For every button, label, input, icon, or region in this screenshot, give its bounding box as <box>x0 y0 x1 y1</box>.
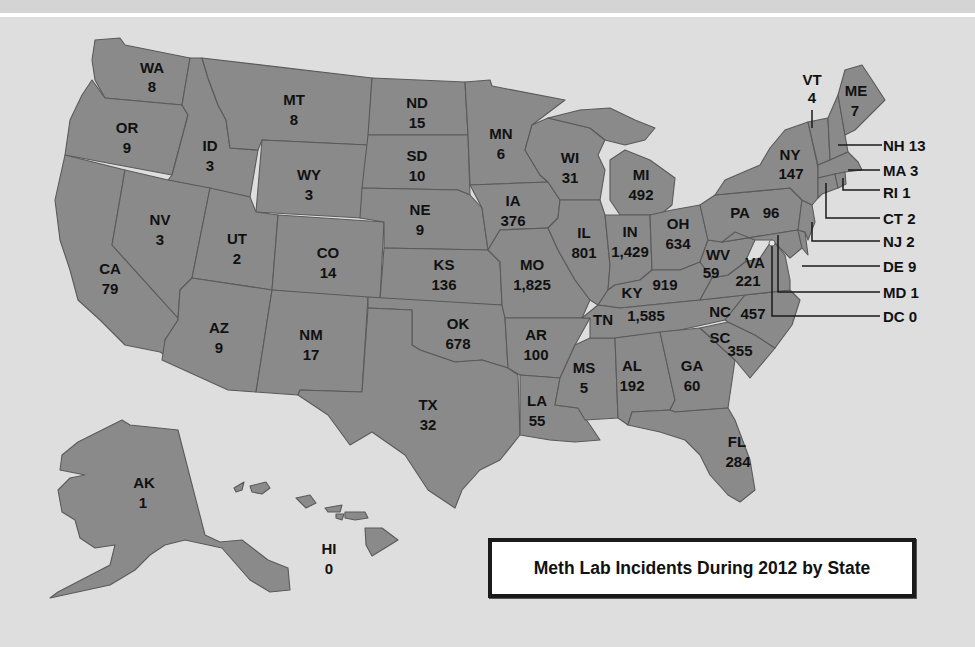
label-GA-value: 60 <box>684 377 701 394</box>
label-AL-abbr: AL <box>622 357 642 374</box>
callout-DE: DE 9 <box>883 258 916 275</box>
state-HI-lanai[interactable] <box>336 514 344 520</box>
label-WV-abbr: WV <box>706 246 730 263</box>
callout-MA: MA 3 <box>883 162 918 179</box>
label-PA-abbr: PA <box>730 204 750 221</box>
state-HI-kauai[interactable] <box>234 482 244 492</box>
label-NV-abbr: NV <box>150 211 171 228</box>
label-HI-abbr: HI <box>322 540 337 557</box>
label-OR-value: 9 <box>123 139 131 156</box>
label-KY-value: 919 <box>652 276 677 293</box>
label-IL-value: 801 <box>571 244 596 261</box>
label-UT-value: 2 <box>233 250 241 267</box>
label-ND-abbr: ND <box>406 94 428 111</box>
callout-RI: RI 1 <box>883 184 911 201</box>
label-AL-value: 192 <box>619 377 644 394</box>
label-NE-value: 9 <box>416 221 424 238</box>
label-KS-abbr: KS <box>434 256 455 273</box>
label-MI-value: 492 <box>628 186 653 203</box>
label-IA-value: 376 <box>500 212 525 229</box>
label-KY-abbr: KY <box>622 284 643 301</box>
label-FL-abbr: FL <box>728 433 746 450</box>
label-WA-abbr: WA <box>140 59 164 76</box>
label-TX-abbr: TX <box>418 396 437 413</box>
label-IN-value: 1,429 <box>611 243 649 260</box>
label-VT-abbr: VT <box>802 71 821 88</box>
label-TN-value: 1,585 <box>627 307 665 324</box>
label-FL-value: 284 <box>725 453 751 470</box>
label-SD-abbr: SD <box>407 147 428 164</box>
label-LA-abbr: LA <box>527 392 547 409</box>
label-AR-value: 100 <box>523 346 548 363</box>
label-SC-value: 355 <box>727 342 752 359</box>
label-CO-abbr: CO <box>317 244 340 261</box>
label-VT-value: 4 <box>808 89 817 106</box>
label-WI-value: 31 <box>562 169 579 186</box>
state-CT[interactable] <box>818 174 838 198</box>
state-HI-molokai[interactable] <box>296 495 316 508</box>
label-HI-value: 0 <box>325 560 333 577</box>
state-HI-maui[interactable] <box>345 512 368 520</box>
callout-MD: MD 1 <box>883 284 919 301</box>
label-ME-abbr: ME <box>845 82 868 99</box>
label-AK-abbr: AK <box>133 474 155 491</box>
label-NM-abbr: NM <box>299 326 322 343</box>
label-ID-abbr: ID <box>203 137 218 154</box>
label-OR-abbr: OR <box>116 119 139 136</box>
label-NV-value: 3 <box>156 231 164 248</box>
label-NE-abbr: NE <box>410 201 431 218</box>
callout-DC: DC 0 <box>883 308 917 325</box>
map-title-box: Meth Lab Incidents During 2012 by State <box>488 538 916 598</box>
label-MS-abbr: MS <box>573 359 596 376</box>
label-NY-value: 147 <box>778 165 803 182</box>
label-MN-abbr: MN <box>489 125 512 142</box>
state-HI-oahu[interactable] <box>250 482 270 494</box>
label-MN-value: 6 <box>497 145 505 162</box>
label-AZ-value: 9 <box>215 339 223 356</box>
label-NC-abbr: NC <box>709 303 731 320</box>
label-MO-abbr: MO <box>520 256 544 273</box>
callout-CT: CT 2 <box>883 210 916 227</box>
label-CA-value: 79 <box>102 280 119 297</box>
label-OH-value: 634 <box>665 235 691 252</box>
label-UT-abbr: UT <box>227 230 247 247</box>
label-AK-value: 1 <box>139 494 147 511</box>
label-WY-abbr: WY <box>297 166 321 183</box>
label-MI-abbr: MI <box>633 166 650 183</box>
label-IA-abbr: IA <box>506 192 521 209</box>
label-AR-abbr: AR <box>525 326 547 343</box>
label-MT-value: 8 <box>290 111 298 128</box>
state-SD[interactable] <box>362 135 470 195</box>
state-ME[interactable] <box>838 65 885 135</box>
callout-NH: NH 13 <box>883 137 926 154</box>
label-MS-value: 5 <box>580 379 588 396</box>
label-PA-value: 96 <box>763 204 780 221</box>
label-WA-value: 8 <box>148 78 156 95</box>
label-KS-value: 136 <box>431 276 456 293</box>
state-AK[interactable] <box>50 420 290 598</box>
label-IN-abbr: IN <box>623 223 638 240</box>
label-CA-abbr: CA <box>99 260 121 277</box>
label-MT-abbr: MT <box>283 91 305 108</box>
label-ND-value: 15 <box>409 114 426 131</box>
label-ID-value: 3 <box>206 157 214 174</box>
state-HI-maui-west[interactable] <box>325 505 342 512</box>
label-WV-value: 59 <box>703 264 720 281</box>
label-MO-value: 1,825 <box>513 276 551 293</box>
label-OH-abbr: OH <box>667 215 690 232</box>
label-OK-value: 678 <box>445 335 470 352</box>
label-GA-abbr: GA <box>681 357 704 374</box>
label-WY-value: 3 <box>305 186 313 203</box>
label-ME-value: 7 <box>851 102 859 119</box>
state-HI-big[interactable] <box>365 528 398 556</box>
label-LA-value: 55 <box>529 412 546 429</box>
label-NM-value: 17 <box>303 346 320 363</box>
label-IL-abbr: IL <box>577 224 590 241</box>
label-VA-value: 221 <box>735 272 760 289</box>
label-OK-abbr: OK <box>447 315 470 332</box>
label-TN-abbr: TN <box>593 311 613 328</box>
map-title: Meth Lab Incidents During 2012 by State <box>534 558 870 579</box>
label-AZ-abbr: AZ <box>209 319 229 336</box>
label-NY-abbr: NY <box>780 146 801 163</box>
label-NC-value: 457 <box>740 305 765 322</box>
